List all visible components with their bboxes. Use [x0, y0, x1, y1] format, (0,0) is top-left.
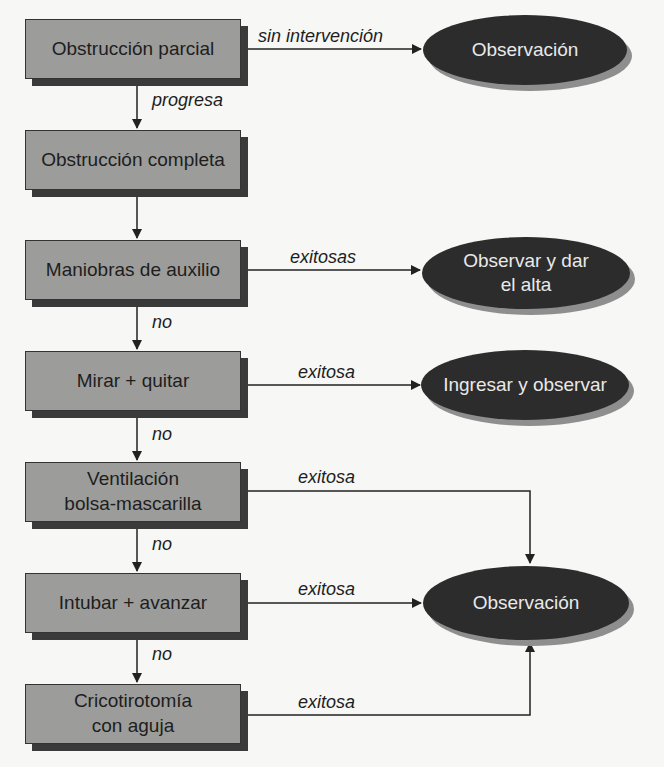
step-label: Obstrucción parcial	[52, 37, 215, 62]
step-label: Obstrucción completa	[41, 148, 225, 173]
step-ventilacion: Ventilación bolsa-mascarilla	[25, 462, 241, 522]
step-label-line1: Cricotirotomía	[74, 689, 192, 714]
step-label: Maniobras de auxilio	[46, 258, 220, 283]
edge-label-no: no	[152, 424, 172, 445]
edge-label-exitosa: exitosa	[298, 467, 355, 488]
outcome-ingresar-observar: Ingresar y observar	[421, 350, 629, 420]
step-label-line2: bolsa-mascarilla	[64, 492, 201, 517]
edge-label-no: no	[152, 644, 172, 665]
edge-label-progresa: progresa	[152, 90, 223, 111]
step-obstruccion-completa: Obstrucción completa	[25, 130, 241, 190]
outcome-observar-alta: Observar y dar el alta	[422, 237, 630, 309]
outcome-label: Ingresar y observar	[443, 373, 607, 397]
step-label-line2: con aguja	[92, 714, 174, 739]
edge-label-sin-intervencion: sin intervención	[258, 26, 383, 47]
step-label-line1: Ventilación	[87, 467, 179, 492]
edge-label-no: no	[152, 312, 172, 333]
edge-label-no: no	[152, 534, 172, 555]
outcome-observacion-bottom: Observación	[423, 566, 629, 640]
step-label: Intubar + avanzar	[59, 591, 207, 616]
step-cricotirotomia: Cricotirotomía con aguja	[25, 684, 241, 744]
outcome-observacion-top: Observación	[423, 15, 627, 85]
outcome-label: Observación	[472, 38, 579, 62]
step-intubar-avanzar: Intubar + avanzar	[25, 573, 241, 633]
edge-label-exitosa: exitosa	[298, 362, 355, 383]
edge-label-exitosas: exitosas	[290, 247, 356, 268]
outcome-label-line2: el alta	[501, 273, 552, 297]
outcome-label-line1: Observar y dar	[463, 249, 589, 273]
step-obstruccion-parcial: Obstrucción parcial	[25, 19, 241, 79]
step-mirar-quitar: Mirar + quitar	[25, 351, 241, 411]
step-maniobras-auxilio: Maniobras de auxilio	[25, 240, 241, 300]
outcome-label: Observación	[473, 591, 580, 615]
step-label: Mirar + quitar	[77, 369, 189, 394]
edge-label-exitosa: exitosa	[298, 579, 355, 600]
edge-label-exitosa: exitosa	[298, 692, 355, 713]
